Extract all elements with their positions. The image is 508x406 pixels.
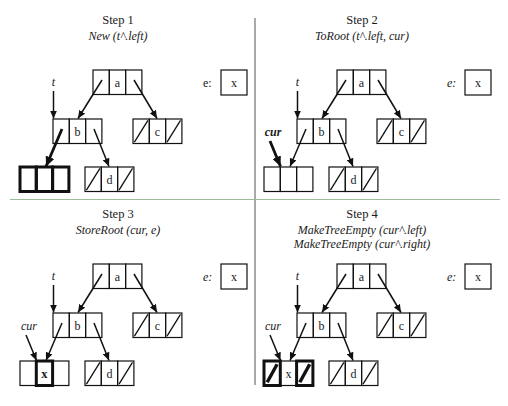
cur-pointer-arrow <box>270 141 281 167</box>
right-link-cell <box>370 70 386 95</box>
node-info-text: d <box>106 173 112 187</box>
node-new <box>264 167 313 192</box>
nil-slash-icon <box>167 120 181 142</box>
right-link-cell <box>86 119 102 144</box>
node-info-text: b <box>318 319 324 333</box>
e-variable-label: e: <box>203 76 212 90</box>
right-link-cell <box>330 313 346 338</box>
step-2-panel: Step 2ToRoot (t^.left, cur)e:xabcdtcur <box>264 13 491 192</box>
nil-slash-icon <box>134 314 148 336</box>
node-info-text: b <box>74 125 80 139</box>
nil-slash-icon <box>300 364 310 382</box>
step-operation: StoreRoot (cur, e) <box>76 223 161 237</box>
nil-slash-icon <box>411 120 425 142</box>
e-variable-value: x <box>231 270 237 284</box>
node-info-text: x <box>41 367 48 381</box>
t-pointer-label: t <box>296 75 300 89</box>
node-info-text: c <box>155 125 160 139</box>
left-link-cell <box>20 167 36 192</box>
nil-slash-icon <box>267 364 277 382</box>
cur-pointer-arrow <box>26 335 37 361</box>
right-link-cell <box>126 264 142 289</box>
right-link-cell <box>86 313 102 338</box>
node-info-text: b <box>318 125 324 139</box>
nil-slash-icon <box>134 120 148 142</box>
step-title: Step 3 <box>102 207 134 221</box>
node-root-right: c <box>377 119 426 144</box>
nil-slash-icon <box>378 314 392 336</box>
node-info-text: c <box>399 125 404 139</box>
right-link-cell <box>126 70 142 95</box>
root-right-link-arrow <box>378 274 401 313</box>
t-pointer-label: t <box>52 269 56 283</box>
root-right-link-arrow <box>134 274 157 313</box>
nil-slash-icon <box>363 168 377 190</box>
right-link-cell <box>330 119 346 144</box>
b-left-link-arrow <box>46 129 62 167</box>
node-info-text: c <box>399 319 404 333</box>
right-link-cell <box>297 167 313 192</box>
step-title: Step 4 <box>346 207 378 221</box>
e-variable-label: e: <box>203 270 212 284</box>
e-variable-value: x <box>475 76 481 90</box>
nil-slash-icon <box>86 168 100 190</box>
node-info-text: a <box>115 76 121 90</box>
node-new: x <box>264 361 313 386</box>
cur-pointer-label: cur <box>265 125 282 139</box>
node-root-right: c <box>133 313 182 338</box>
right-link-cell <box>370 264 386 289</box>
info-cell <box>36 167 52 192</box>
nil-slash-icon <box>86 362 100 384</box>
node-info-text: c <box>155 319 160 333</box>
root-right-link-arrow <box>134 80 157 119</box>
e-variable-label: e: <box>447 76 456 90</box>
root-right-link-arrow <box>378 80 401 119</box>
root-left-link-arrow <box>78 274 102 313</box>
node-root-right: c <box>133 119 182 144</box>
node-info-text: x <box>285 367 291 381</box>
step-1-panel: Step 1New (t^.left)e:xabcdt <box>20 13 247 192</box>
nil-slash-icon <box>330 168 344 190</box>
info-cell <box>280 167 296 192</box>
e-variable-label: e: <box>447 270 456 284</box>
step-operation: New (t^.left) <box>87 29 147 43</box>
node-info-text: b <box>74 319 80 333</box>
nil-slash-icon <box>167 314 181 336</box>
node-info-text: a <box>359 270 365 284</box>
step-4-panel: Step 4MakeTreeEmpty (cur^.left)MakeTreeE… <box>264 207 491 386</box>
step-operation: MakeTreeEmpty (cur^.right) <box>293 237 431 251</box>
right-link-cell <box>53 361 69 386</box>
nil-slash-icon <box>330 362 344 384</box>
nil-slash-icon <box>119 168 133 190</box>
cur-pointer-arrow <box>270 335 281 361</box>
root-left-link-arrow <box>322 274 346 313</box>
left-link-cell <box>264 167 280 192</box>
left-link-cell <box>20 361 36 386</box>
step-3-panel: Step 3StoreRoot (cur, e)e:xabcdxtcur <box>20 207 247 386</box>
right-link-cell <box>53 167 69 192</box>
node-b-right: d <box>329 361 378 386</box>
b-left-link-arrow <box>290 323 306 361</box>
cur-pointer-label: cur <box>265 319 281 333</box>
node-root-right: c <box>377 313 426 338</box>
nil-slash-icon <box>378 120 392 142</box>
step-title: Step 1 <box>102 13 134 27</box>
t-pointer-label: t <box>296 269 300 283</box>
root-left-link-arrow <box>78 80 102 119</box>
node-info-text: a <box>359 76 365 90</box>
node-info-text: d <box>350 367 356 381</box>
b-left-link-arrow <box>46 323 62 361</box>
node-info-text: d <box>350 173 356 187</box>
node-info-text: d <box>106 367 112 381</box>
node-b-right: d <box>329 167 378 192</box>
step-title: Step 2 <box>346 13 378 27</box>
t-pointer-label: t <box>52 75 56 89</box>
b-left-link-arrow <box>290 129 306 167</box>
nil-slash-icon <box>119 362 133 384</box>
node-b-right: d <box>85 361 134 386</box>
nil-slash-icon <box>411 314 425 336</box>
root-left-link-arrow <box>322 80 346 119</box>
nil-slash-icon <box>363 362 377 384</box>
e-variable-value: x <box>475 270 481 284</box>
node-new <box>20 167 69 192</box>
